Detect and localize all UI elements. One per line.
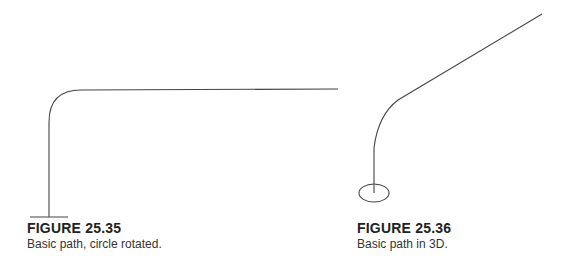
figure-25-35-drawing — [30, 89, 338, 217]
figure-description: Basic path, circle rotated. — [27, 237, 162, 251]
figure-25-36-caption: FIGURE 25.36 Basic path in 3D. — [357, 221, 451, 251]
basic-path-2d — [49, 89, 338, 217]
basic-path-3d — [374, 14, 542, 193]
figure-description: Basic path in 3D. — [357, 237, 451, 251]
figure-title: FIGURE 25.36 — [357, 221, 451, 236]
figure-title: FIGURE 25.35 — [27, 221, 162, 236]
figure-25-35-caption: FIGURE 25.35 Basic path, circle rotated. — [27, 221, 162, 251]
figure-25-36-drawing — [359, 14, 542, 202]
